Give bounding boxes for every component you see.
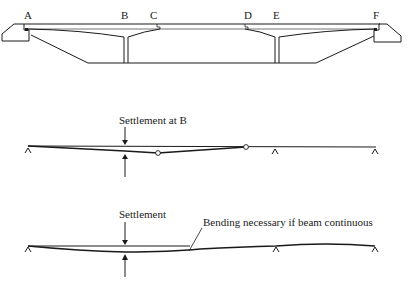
label-b: B	[121, 9, 128, 21]
soffit-span-bc	[128, 29, 160, 37]
arrowhead-up-icon	[122, 154, 128, 159]
label-d: D	[244, 9, 252, 21]
arrowhead-down-icon	[122, 140, 128, 145]
label-e: E	[273, 9, 280, 21]
support-f-icon	[372, 247, 378, 252]
support-f-icon	[372, 149, 378, 154]
beam-deflected	[28, 146, 246, 153]
abutment-right	[374, 24, 401, 42]
soffit-span-de	[245, 29, 275, 37]
bridge-elevation: A B C D E F	[2, 9, 401, 63]
embankment-left	[31, 35, 88, 63]
bearing-a	[25, 28, 28, 31]
beam-deflected-continuous	[28, 244, 375, 252]
support-a-icon	[25, 148, 31, 153]
beam-original	[28, 146, 376, 147]
annotation-bending: Bending necessary if beam continuous	[203, 216, 373, 228]
hinge-d	[244, 145, 249, 150]
joint-c	[157, 24, 160, 29]
support-e-icon	[273, 247, 279, 252]
diagram-continuous-beam: Settlement Bending necessary if beam con…	[25, 208, 378, 277]
embankment-right	[316, 36, 374, 63]
joint-d	[245, 24, 248, 29]
abutment-left	[2, 24, 29, 41]
support-a-icon	[25, 247, 31, 252]
annotation-leader	[189, 228, 202, 251]
label-c: C	[150, 9, 157, 21]
soffit-span-ef	[279, 29, 376, 37]
label-a: A	[24, 9, 32, 21]
caption-settlement-at-b: Settlement at B	[119, 114, 187, 126]
label-f: F	[373, 9, 379, 21]
bridge-settlement-figure: A B C D E F Settlement at	[0, 0, 412, 289]
soffit-span-ab	[28, 29, 124, 37]
hinge-c	[156, 151, 161, 156]
diagram-hinged-beam: Settlement at B	[25, 114, 378, 177]
support-e-icon	[272, 149, 278, 154]
caption-settlement: Settlement	[119, 208, 166, 220]
arrowhead-up-icon	[122, 254, 128, 260]
arrowhead-down-icon	[122, 240, 128, 245]
